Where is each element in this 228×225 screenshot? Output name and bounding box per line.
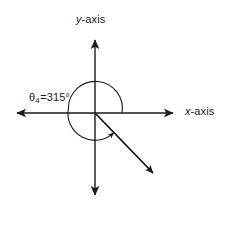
- terminal-ray-arrow: [95, 113, 153, 173]
- y-axis-label-suffix: -axis: [82, 13, 106, 25]
- angle-diagram: y-axis x-axis θ4=315°: [0, 0, 228, 225]
- x-axis-label-suffix: -axis: [191, 105, 215, 117]
- angle-value: 315°: [47, 91, 70, 103]
- angle-measure-label: θ4=315°: [29, 91, 70, 105]
- y-axis-label: y-axis: [76, 13, 105, 25]
- x-axis-label: x-axis: [185, 105, 214, 117]
